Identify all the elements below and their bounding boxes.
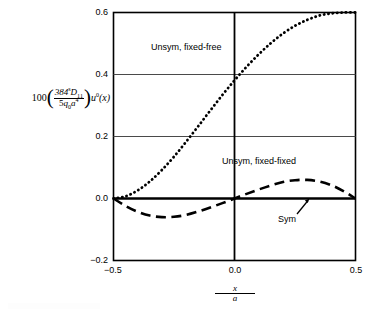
sym-annotation-arrow <box>297 198 310 214</box>
plot-canvas <box>0 0 367 317</box>
scan-artifact <box>8 303 100 309</box>
figure-container: 100(384sD115q0a4)u0(x) 0.6 0.4 0.2 0.0 −… <box>0 0 367 317</box>
